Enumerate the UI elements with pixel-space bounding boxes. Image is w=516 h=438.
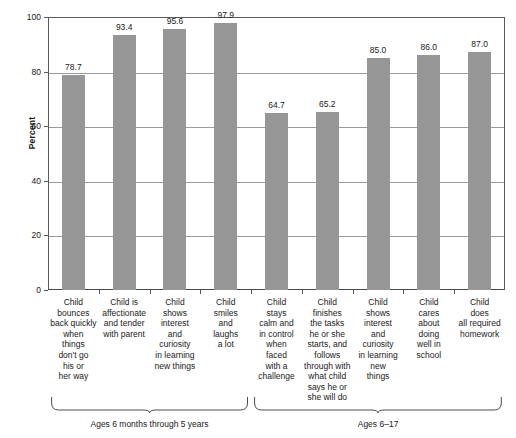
bar bbox=[265, 113, 288, 290]
y-tick-mark bbox=[44, 17, 48, 18]
x-category-label-line: Child bbox=[302, 297, 353, 308]
x-category-label-line: challenge bbox=[251, 371, 302, 382]
x-category-label: Child isaffectionateand tenderwith paren… bbox=[99, 297, 150, 339]
x-category-label-line: and bbox=[353, 329, 404, 340]
x-category-label: Childsmilesandlaughsa lot bbox=[200, 297, 251, 350]
bar bbox=[214, 23, 237, 290]
group-brace bbox=[254, 397, 502, 413]
x-category-label-line: follows bbox=[302, 350, 353, 361]
x-category-label: Childcaresaboutdoingwell inschool bbox=[403, 297, 454, 361]
x-category-label: Childstayscalm andin controlwhenfacedwit… bbox=[251, 297, 302, 382]
group-brace bbox=[51, 397, 248, 413]
x-category-label-line: new bbox=[353, 361, 404, 372]
x-category-label-line: homework bbox=[454, 329, 505, 340]
x-category-label-line: affectionate bbox=[99, 308, 150, 319]
x-tick-mark bbox=[353, 290, 354, 294]
x-tick-mark bbox=[99, 290, 100, 294]
x-category-label-line: shows bbox=[353, 308, 404, 319]
bar bbox=[62, 75, 85, 290]
x-category-label-line: Child bbox=[454, 297, 505, 308]
x-tick-mark bbox=[251, 290, 252, 294]
y-tick-mark bbox=[44, 126, 48, 127]
x-category-label-line: Child bbox=[48, 297, 99, 308]
x-category-label-line: interest bbox=[353, 318, 404, 329]
x-category-label-line: Child bbox=[200, 297, 251, 308]
bar-value-label: 64.7 bbox=[268, 100, 285, 110]
x-category-label-line: finishes bbox=[302, 308, 353, 319]
x-category-label-line: interest bbox=[150, 318, 201, 329]
x-category-label-line: all required bbox=[454, 318, 505, 329]
x-category-label: Childdoesall requiredhomework bbox=[454, 297, 505, 339]
x-category-label-line: Child bbox=[251, 297, 302, 308]
y-tick-label: 20 bbox=[0, 230, 41, 240]
x-category-label-line: Child bbox=[150, 297, 201, 308]
x-category-label-line: stays bbox=[251, 308, 302, 319]
x-category-label-line: back quickly bbox=[48, 318, 99, 329]
x-category-label: Childshowsinterestandcuriosityin learnin… bbox=[353, 297, 404, 382]
y-tick-mark bbox=[44, 235, 48, 236]
x-category-label-line: when bbox=[48, 329, 99, 340]
x-category-label-line: says he or bbox=[302, 382, 353, 393]
x-category-label-line: laughs bbox=[200, 329, 251, 340]
y-axis-title: Percent bbox=[27, 103, 37, 163]
x-category-label-line: with a bbox=[251, 361, 302, 372]
x-category-label-line: with parent bbox=[99, 329, 150, 340]
x-category-label-line: what child bbox=[302, 371, 353, 382]
x-category-label-line: doing bbox=[403, 329, 454, 340]
x-category-label-line: well in bbox=[403, 339, 454, 350]
x-category-label-line: about bbox=[403, 318, 454, 329]
bar bbox=[367, 58, 390, 290]
bar bbox=[468, 52, 491, 290]
x-category-label-line: and bbox=[150, 329, 201, 340]
x-tick-mark bbox=[302, 290, 303, 294]
x-category-label-line: in learning bbox=[353, 350, 404, 361]
y-tick-label: 60 bbox=[0, 121, 41, 131]
y-tick-label: 100 bbox=[0, 12, 41, 22]
x-tick-mark bbox=[200, 290, 201, 294]
x-category-label-line: things bbox=[353, 371, 404, 382]
x-category-label-line: starts, and bbox=[302, 339, 353, 350]
bar-value-label: 78.7 bbox=[65, 62, 82, 72]
x-category-label-line: calm and bbox=[251, 318, 302, 329]
y-tick-mark bbox=[44, 72, 48, 73]
y-tick-label: 0 bbox=[0, 285, 41, 295]
x-category-label: Childfinishesthe taskshe or shestarts, a… bbox=[302, 297, 353, 403]
x-category-label-line: cares bbox=[403, 308, 454, 319]
x-category-label-line: faced bbox=[251, 350, 302, 361]
group-label: Ages 6 months through 5 years bbox=[90, 419, 208, 429]
bar-chart-figure: Percent 020406080100 78.793.495.697.964.… bbox=[0, 0, 516, 438]
x-category-label-line: when bbox=[251, 339, 302, 350]
x-category-label-line: Child bbox=[403, 297, 454, 308]
x-category-label-line: Child is bbox=[99, 297, 150, 308]
group-label: Ages 6–17 bbox=[358, 419, 399, 429]
x-category-label-line: curiosity bbox=[150, 339, 201, 350]
bar-value-label: 95.6 bbox=[167, 16, 184, 26]
x-category-label-line: a lot bbox=[200, 339, 251, 350]
x-category-label-line: does bbox=[454, 308, 505, 319]
x-category-label-line: school bbox=[403, 350, 454, 361]
y-tick-label: 40 bbox=[0, 176, 41, 186]
x-category-label: Childshowsinterestandcuriosityin learnin… bbox=[150, 297, 201, 371]
bar-value-label: 93.4 bbox=[116, 22, 133, 32]
x-category-label-line: her way bbox=[48, 371, 99, 382]
y-tick-mark bbox=[44, 181, 48, 182]
x-category-label-line: new things bbox=[150, 361, 201, 372]
y-tick-label: 80 bbox=[0, 67, 41, 77]
bar-value-label: 65.2 bbox=[319, 99, 336, 109]
bar-value-label: 86.0 bbox=[421, 42, 438, 52]
x-category-label-line: don't go bbox=[48, 350, 99, 361]
x-category-label-line: and bbox=[200, 318, 251, 329]
x-category-label-line: and tender bbox=[99, 318, 150, 329]
x-tick-mark bbox=[454, 290, 455, 294]
bar bbox=[417, 55, 440, 290]
x-category-label-line: in control bbox=[251, 329, 302, 340]
x-category-label-line: the tasks bbox=[302, 318, 353, 329]
x-category-label-line: smiles bbox=[200, 308, 251, 319]
bar bbox=[163, 29, 186, 290]
x-category-label-line: bounces bbox=[48, 308, 99, 319]
x-category-label: Childbouncesback quicklywhenthingsdon't … bbox=[48, 297, 99, 382]
x-category-label-line: Child bbox=[353, 297, 404, 308]
x-category-label-line: he or she bbox=[302, 329, 353, 340]
x-category-label-line: shows bbox=[150, 308, 201, 319]
x-category-label-line: in learning bbox=[150, 350, 201, 361]
